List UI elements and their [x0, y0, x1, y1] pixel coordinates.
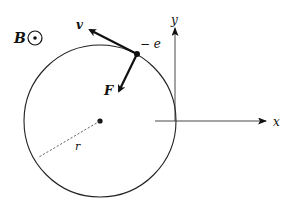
x-axis-label: x — [273, 115, 280, 129]
y-axis-label: y — [170, 13, 178, 27]
radius-line — [39, 121, 100, 157]
field-label: B — [13, 30, 26, 46]
diagram-canvas: r x y − e v F B — [0, 0, 296, 209]
charge-label: − e — [140, 37, 161, 51]
velocity-arrow — [90, 30, 137, 54]
radius-label: r — [75, 140, 81, 153]
force-label: F — [103, 83, 114, 98]
force-arrow — [119, 54, 137, 91]
velocity-label: v — [76, 18, 84, 32]
field-out-of-page-icon — [28, 31, 42, 45]
